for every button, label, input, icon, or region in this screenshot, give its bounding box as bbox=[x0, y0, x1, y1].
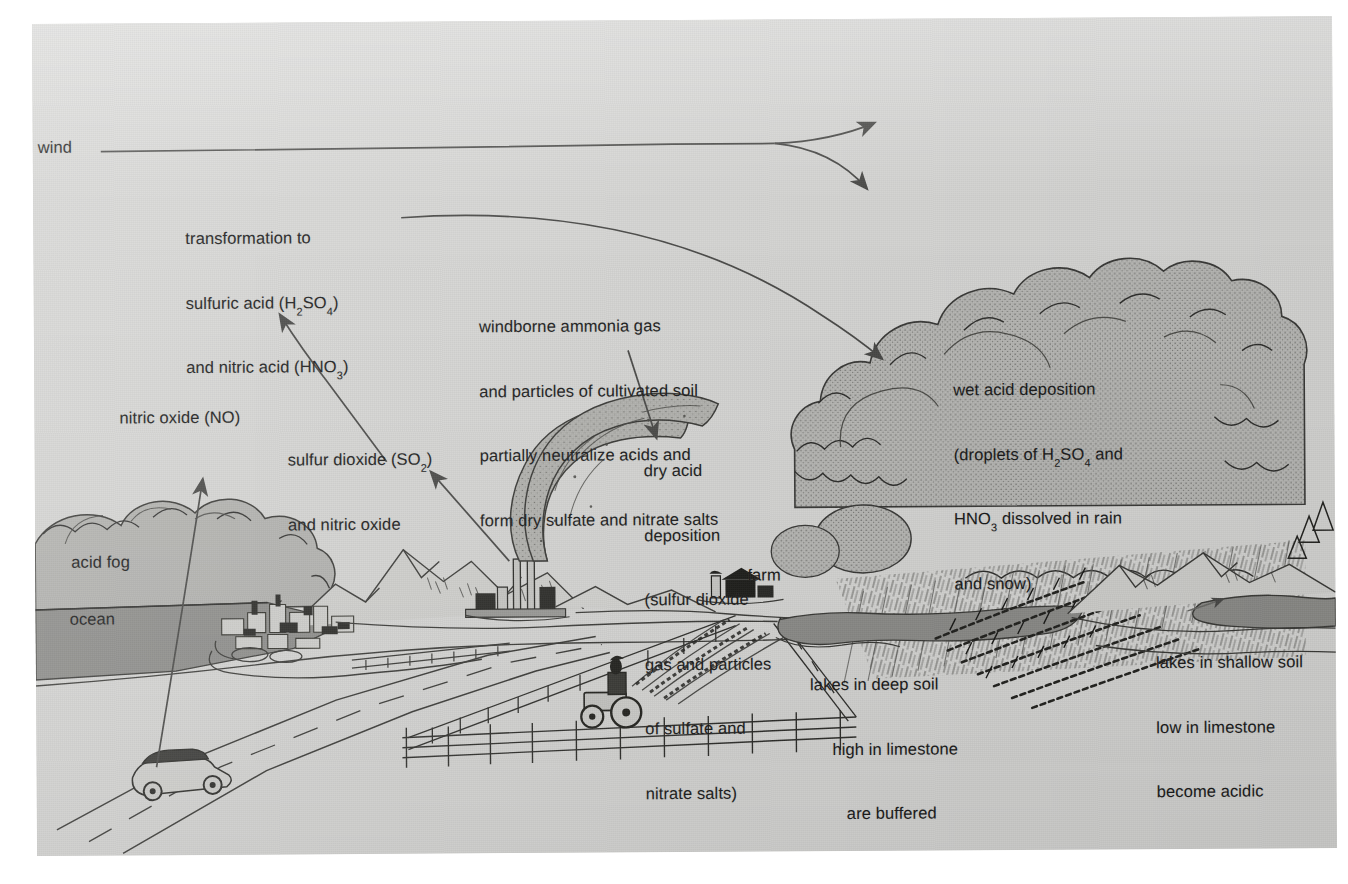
dry-line-2: deposition bbox=[644, 524, 771, 546]
label-sulfur-dioxide: sulfur dioxide (SO2) and nitric oxide bbox=[287, 406, 433, 579]
label-nitric-oxide: nitric oxide (NO) bbox=[119, 407, 240, 429]
dry-line-3: (sulfur dioxide bbox=[644, 588, 771, 610]
ammonia-line-1: windborne ammonia gas bbox=[479, 315, 717, 338]
label-lakes-shallow: lakes in shallow soil low in limestone b… bbox=[1156, 608, 1304, 845]
wet-line-3: HNO3 dissolved in rain bbox=[954, 507, 1124, 530]
dry-line-4: gas and particles bbox=[645, 653, 772, 675]
wet-line-4: and snow) bbox=[954, 572, 1124, 595]
transformation-line-2: sulfuric acid (H2SO4) bbox=[186, 292, 349, 314]
so2-line-2: and nitric oxide bbox=[288, 513, 433, 535]
wet-line-1: wet acid deposition bbox=[953, 378, 1123, 401]
wet-line-2: (droplets of H2SO4 and bbox=[954, 443, 1124, 466]
dry-line-1: dry acid bbox=[644, 459, 771, 481]
label-acid-fog: acid fog bbox=[71, 551, 130, 573]
label-lakes-deep: lakes in deep soil high in limestone are… bbox=[810, 630, 959, 856]
lakes-shallow-line-1: lakes in shallow soil bbox=[1156, 651, 1303, 673]
label-transformation: transformation to sulfuric acid (H2SO4) … bbox=[185, 184, 349, 421]
transformation-line-1: transformation to bbox=[185, 227, 348, 249]
dry-line-5: of sulfate and bbox=[645, 717, 772, 739]
label-wet-acid-deposition: wet acid deposition (droplets of H2SO4 a… bbox=[953, 335, 1124, 637]
transformation-line-3: and nitric acid (HNO3) bbox=[186, 356, 349, 378]
so2-line-1: sulfur dioxide (SO2) bbox=[288, 449, 433, 471]
lakes-shallow-line-3: become acidic bbox=[1157, 780, 1304, 802]
illustration-plate: wind transformation to sulfuric acid (H2… bbox=[32, 16, 1337, 856]
label-ocean: ocean bbox=[70, 609, 116, 631]
lakes-shallow-line-2: low in limestone bbox=[1156, 716, 1303, 738]
label-farm: farm bbox=[747, 564, 781, 586]
lakes-deep-line-1: lakes in deep soil bbox=[810, 673, 958, 695]
lakes-deep-line-2: high in limestone bbox=[810, 738, 958, 760]
dry-line-6: nitrate salts) bbox=[646, 782, 773, 804]
ammonia-line-2: and particles of cultivated soil bbox=[479, 379, 717, 402]
figure-page: wind transformation to sulfuric acid (H2… bbox=[0, 0, 1348, 884]
label-dry-acid-deposition: dry acid deposition (sulfur dioxide gas … bbox=[643, 417, 772, 848]
lakes-deep-line-3: are buffered bbox=[811, 802, 959, 824]
label-wind: wind bbox=[38, 137, 72, 159]
